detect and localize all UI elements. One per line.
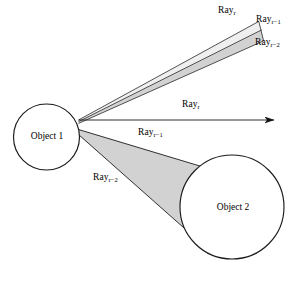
ray-r-minus-2-lower-base: Ray [93, 172, 109, 182]
ray-r-minus-2-top-subscript: r−2 [271, 41, 280, 48]
ray-tracing-figure: Rayr Rayr−1 Rayr−2 Rayr Rayr−1 Rayr−2 Ob… [0, 0, 303, 281]
ray-r-minus-1-middle-subscript: r−1 [154, 131, 163, 138]
ray-r-middle-subscript: r [198, 103, 200, 110]
ray-r-minus-2-upper-line [79, 41, 264, 124]
ray-r-minus-2-lower-label: Rayr−2 [93, 173, 118, 183]
upper-beam-fill [79, 30, 264, 123]
ray-r-minus-1-top-subscript: r−1 [272, 18, 281, 25]
ray-r-upper-line [79, 21, 259, 120]
ray-r-minus-1-middle-label: Rayr−1 [138, 128, 163, 138]
ray-r-middle-base: Ray [182, 99, 198, 109]
ray-r-middle-label: Rayr [182, 100, 200, 110]
ray-r-minus-2-top-label: Rayr−2 [255, 38, 280, 48]
ray-r-minus-1-middle-base: Ray [138, 127, 154, 137]
ray-r-minus-1-top-base: Ray [256, 14, 272, 24]
ray-r-top-base: Ray [218, 5, 234, 15]
ray-r-minus-2-lower-subscript: r−2 [109, 176, 118, 183]
ray-r-minus-1-top-label: Rayr−1 [256, 15, 281, 25]
ray-r-top-label: Rayr [218, 6, 236, 16]
upper-beam-light-sliver [79, 22, 262, 122]
object-2-label: Object 2 [205, 203, 261, 213]
object-1-label: Object 1 [24, 132, 70, 142]
ray-r-minus-1-upper-line [79, 30, 262, 122]
ray-r-minus-2-top-base: Ray [255, 37, 271, 47]
ray-r-top-subscript: r [234, 9, 236, 16]
